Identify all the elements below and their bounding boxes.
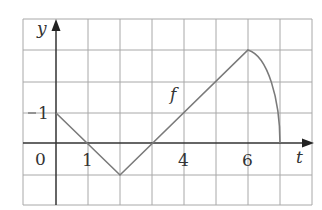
y-axis-label: y xyxy=(36,18,47,38)
y-tick-label-1: 1 xyxy=(38,103,49,123)
x-tick-label-6: 6 xyxy=(242,150,253,170)
x-tick-label-1: 1 xyxy=(82,150,93,170)
grid xyxy=(23,19,312,205)
origin-label: 0 xyxy=(35,149,46,169)
y-axis-arrow-icon xyxy=(52,19,61,31)
t-axis-label: t xyxy=(296,147,303,167)
x-tick-label-4: 4 xyxy=(178,150,189,170)
function-graph: y t 0 1 4 6 1 f xyxy=(0,0,322,210)
function-label: f xyxy=(168,84,179,104)
axes xyxy=(23,30,305,205)
